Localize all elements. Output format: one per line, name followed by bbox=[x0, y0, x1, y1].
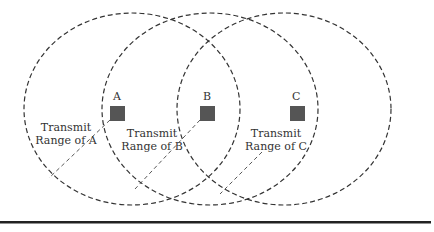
range-label-b: Transmit Range of B bbox=[116, 127, 188, 153]
node-a-label: A bbox=[113, 90, 121, 103]
range-label-a-line1: Transmit bbox=[30, 121, 102, 134]
node-a-square bbox=[110, 106, 125, 121]
range-label-b-line2: Range of B bbox=[116, 140, 188, 153]
range-label-a-line2: Range of A bbox=[30, 134, 102, 147]
range-label-c-line2: Range of C bbox=[240, 140, 312, 153]
range-label-c-line1: Transmit bbox=[240, 127, 312, 140]
node-c-label: C bbox=[292, 90, 300, 103]
node-c-square bbox=[290, 106, 305, 121]
node-b-label: B bbox=[203, 90, 211, 103]
range-label-c: Transmit Range of C bbox=[240, 127, 312, 153]
bottom-rule bbox=[0, 221, 431, 224]
node-b-square bbox=[200, 106, 215, 121]
range-label-a: Transmit Range of A bbox=[30, 121, 102, 147]
diagram-canvas bbox=[0, 0, 434, 232]
range-label-b-line1: Transmit bbox=[116, 127, 188, 140]
leader-line-c bbox=[220, 152, 262, 194]
